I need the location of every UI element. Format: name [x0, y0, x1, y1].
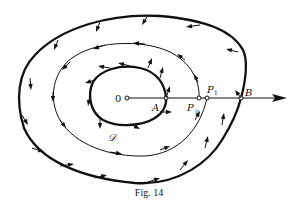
point-p1-marker	[205, 96, 209, 100]
vector-arrowhead-icon	[186, 24, 192, 28]
phase-portrait-figure: 0 A P 0 P 1 B 𝒟 Fig. 14	[0, 0, 298, 202]
vector-arrowhead-icon	[221, 113, 225, 119]
vector-arrowhead-icon	[54, 44, 58, 50]
vector-arrowhead-icon	[98, 123, 102, 129]
vector-arrowhead-icon	[142, 19, 147, 25]
vector-arrowhead-icon	[166, 86, 170, 92]
vector-arrowhead-icon	[148, 58, 152, 64]
vector-arrowhead-icon	[204, 136, 208, 142]
point-p1-subscript: 1	[214, 89, 218, 96]
vector-arrowhead-icon	[98, 65, 104, 69]
vector-arrowhead-icon	[51, 96, 55, 102]
vector-arrowhead-icon	[85, 79, 91, 83]
origin-point	[125, 96, 129, 100]
spiral-trajectory	[53, 43, 207, 156]
origin-label: 0	[115, 93, 121, 104]
vector-arrowhead-icon	[194, 74, 199, 80]
vector-arrowhead-icon	[166, 110, 172, 114]
region-d-label: 𝒟	[108, 132, 118, 143]
figure-caption: Fig. 14	[135, 187, 163, 198]
vector-arrowhead-icon	[159, 67, 163, 73]
point-a-label: A	[151, 102, 159, 113]
vector-arrowhead-icon	[28, 84, 32, 90]
point-p0-label: P	[186, 102, 194, 113]
point-p0-marker	[197, 96, 201, 100]
point-p1-label: P	[206, 84, 214, 95]
vector-arrowhead-icon	[96, 26, 100, 32]
vector-arrowhead-icon	[68, 163, 74, 167]
point-b-label: B	[244, 87, 252, 98]
vector-arrowhead-icon	[226, 48, 232, 52]
vector-arrowhead-icon	[235, 90, 240, 96]
